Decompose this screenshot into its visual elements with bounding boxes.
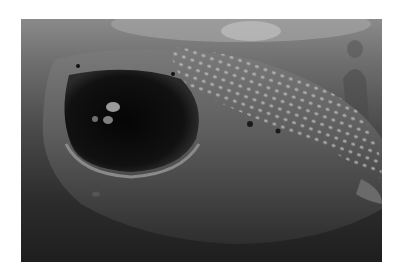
whale-shark-photo xyxy=(21,19,382,262)
gill-spot xyxy=(247,121,253,127)
water-surface xyxy=(111,19,371,42)
shark-eye-left xyxy=(76,64,80,68)
small-fish xyxy=(92,192,100,197)
photo-scene xyxy=(21,19,382,262)
gill-spot xyxy=(276,129,281,134)
shark-eye-right xyxy=(171,72,175,76)
